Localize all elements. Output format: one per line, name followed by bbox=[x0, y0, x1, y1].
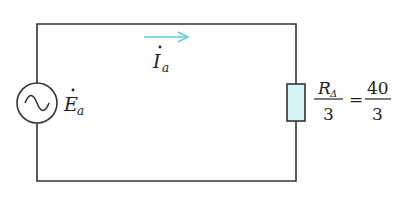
lhs-numerator-subscript: Δ bbox=[329, 88, 337, 99]
phasor-dot-icon bbox=[72, 89, 75, 92]
current-label: I a bbox=[152, 46, 169, 75]
lhs-numerator-symbol: R bbox=[317, 78, 331, 98]
lhs-denominator: 3 bbox=[323, 104, 334, 124]
source-subscript: a bbox=[77, 104, 84, 118]
wire-bottom-loop bbox=[37, 121, 296, 181]
current-subscript: a bbox=[162, 61, 169, 75]
rhs-denominator: 3 bbox=[372, 104, 383, 124]
source-symbol: E bbox=[63, 93, 78, 115]
load-equation: R Δ 3 = 40 3 bbox=[314, 78, 391, 124]
source-label: E a bbox=[63, 89, 84, 118]
phasor-dot-icon bbox=[159, 46, 162, 49]
ac-voltage-source-icon bbox=[17, 83, 57, 123]
equals-sign: = bbox=[349, 89, 363, 109]
rhs-numerator: 40 bbox=[367, 78, 389, 98]
wire-top-loop bbox=[37, 24, 296, 84]
current-symbol: I bbox=[152, 50, 161, 72]
circuit-diagram: E a I a R Δ 3 = 40 3 bbox=[0, 0, 409, 207]
current-arrow-icon bbox=[144, 32, 188, 42]
resistor-icon bbox=[287, 84, 305, 121]
